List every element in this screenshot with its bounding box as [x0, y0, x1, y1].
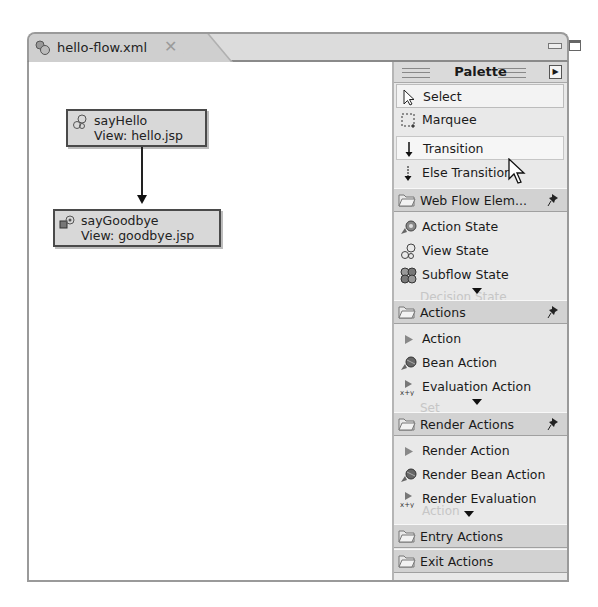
palette-item-action[interactable]: Action — [396, 327, 564, 351]
folder-open-icon — [398, 554, 416, 568]
state-name: sayHello — [94, 113, 147, 128]
state-view: View: hello.jsp — [94, 128, 183, 143]
palette-item-render-bean-action[interactable]: Render Bean Action — [396, 463, 564, 487]
arrow-cursor-icon — [401, 89, 418, 106]
editor-tab-bar: hello-flow.xml ✕ — [27, 32, 569, 62]
action-state-icon — [400, 219, 417, 236]
drawer-exit-actions[interactable]: Exit Actions — [394, 549, 567, 573]
transition-arrow-icon — [401, 141, 418, 158]
editor-tab[interactable]: hello-flow.xml ✕ — [29, 34, 199, 62]
show-more-arrow-icon[interactable] — [472, 399, 482, 405]
state-node-saygoodbye[interactable]: sayGoodbye View: goodbye.jsp — [53, 209, 221, 247]
palette-item-subflow-state[interactable]: Subflow State — [396, 263, 564, 287]
palette-tool-select[interactable]: Select — [396, 84, 564, 108]
transition-arrowhead — [137, 195, 147, 204]
show-more-arrow-icon[interactable] — [472, 288, 482, 294]
marquee-icon — [400, 112, 417, 129]
show-more-arrow-icon[interactable] — [464, 511, 474, 517]
editor-tab-title: hello-flow.xml — [57, 40, 147, 55]
pin-icon[interactable] — [547, 417, 559, 431]
palette-tool-else-transition[interactable]: Else Transition — [396, 161, 564, 185]
maximize-button[interactable] — [569, 40, 581, 51]
palette-item-view-state[interactable]: View State — [396, 239, 564, 263]
minimize-button[interactable] — [548, 43, 562, 49]
state-view: View: goodbye.jsp — [81, 228, 194, 243]
pin-icon[interactable] — [547, 305, 559, 319]
palette: Palette ▶ Select Marquee Transition Else… — [392, 62, 567, 580]
palette-item-render-evaluation-action[interactable]: x+y Render Evaluation Action — [396, 487, 564, 521]
action-icon — [400, 443, 417, 460]
svg-text:x+y: x+y — [400, 389, 414, 396]
evaluation-action-icon: x+y — [400, 491, 417, 508]
state-node-sayhello[interactable]: sayHello View: hello.jsp — [66, 109, 207, 147]
transition-edge[interactable] — [141, 147, 143, 197]
palette-item-action-state[interactable]: Action State — [396, 215, 564, 239]
palette-item-bean-action[interactable]: Bean Action — [396, 351, 564, 375]
view-state-icon — [72, 114, 88, 130]
palette-item-evaluation-action[interactable]: x+y Evaluation Action — [396, 375, 564, 399]
else-transition-icon — [400, 165, 417, 182]
folder-open-icon — [398, 417, 416, 431]
drawer-entry-actions[interactable]: Entry Actions — [394, 524, 567, 548]
close-icon[interactable]: ✕ — [164, 37, 177, 56]
palette-header[interactable]: Palette ▶ — [394, 62, 567, 83]
folder-open-icon — [398, 529, 416, 543]
state-name: sayGoodbye — [81, 213, 159, 228]
subflow-state-icon — [400, 267, 417, 284]
palette-tool-transition[interactable]: Transition — [396, 136, 564, 160]
palette-item-render-action[interactable]: Render Action — [396, 439, 564, 463]
evaluation-action-icon: x+y — [400, 379, 417, 396]
action-icon — [400, 331, 417, 348]
palette-menu-button[interactable]: ▶ — [549, 65, 562, 79]
view-state-icon — [400, 243, 417, 260]
drawer-actions[interactable]: Actions — [394, 300, 567, 324]
pin-icon[interactable] — [547, 193, 559, 207]
drawer-web-flow-elements[interactable]: Web Flow Elem... — [394, 188, 567, 212]
svg-text:x+y: x+y — [400, 501, 414, 508]
flow-canvas[interactable]: sayHello View: hello.jsp sayGoodbye View… — [29, 62, 392, 580]
end-state-icon — [59, 214, 75, 230]
drawer-render-actions[interactable]: Render Actions — [394, 412, 567, 436]
folder-open-icon — [398, 305, 416, 319]
flow-file-icon — [35, 40, 51, 56]
palette-title: Palette — [394, 64, 567, 79]
folder-open-icon — [398, 193, 416, 207]
bean-action-icon — [400, 467, 417, 484]
palette-tool-marquee[interactable]: Marquee — [396, 108, 564, 132]
bean-action-icon — [400, 355, 417, 372]
